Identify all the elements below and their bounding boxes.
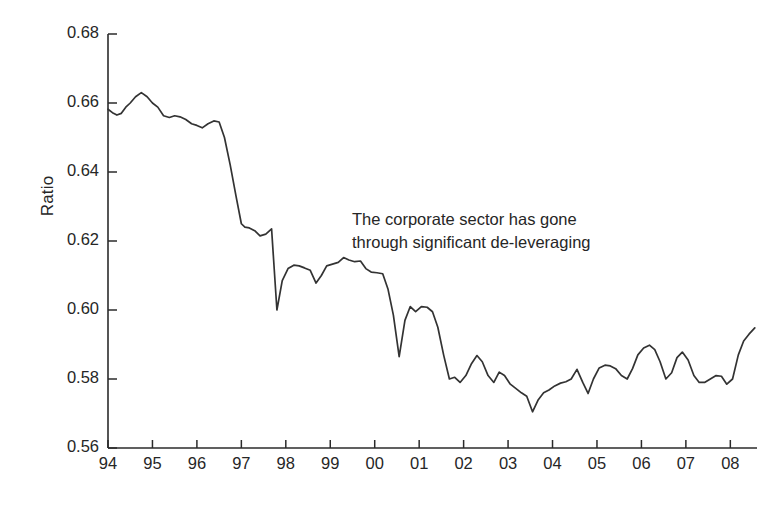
chart-figure: Ratio The corporate sector has gone thro… [0,0,784,507]
x-tick-label: 06 [621,454,661,473]
axes [108,34,757,448]
x-tick-label: 03 [488,454,528,473]
y-tick-marks [108,34,117,448]
x-tick-label: 01 [399,454,439,473]
x-tick-label: 96 [177,454,217,473]
line-chart-plot [0,0,784,507]
x-tick-label: 05 [577,454,617,473]
y-tick-label: 0.60 [41,299,99,318]
y-tick-label: 0.68 [41,23,99,42]
data-series-group [108,93,755,412]
x-tick-label: 00 [355,454,395,473]
series-line [108,93,755,412]
x-tick-label: 08 [710,454,750,473]
x-tick-label: 04 [533,454,573,473]
x-tick-label: 02 [444,454,484,473]
y-tick-label: 0.66 [41,92,99,111]
x-tick-marks [108,440,730,448]
x-tick-label: 98 [266,454,306,473]
x-tick-label: 94 [88,454,128,473]
x-tick-label: 97 [221,454,261,473]
x-tick-label: 95 [132,454,172,473]
x-tick-label: 99 [310,454,350,473]
x-tick-label: 07 [666,454,706,473]
y-tick-label: 0.64 [41,161,99,180]
y-tick-label: 0.58 [41,368,99,387]
y-tick-label: 0.62 [41,230,99,249]
